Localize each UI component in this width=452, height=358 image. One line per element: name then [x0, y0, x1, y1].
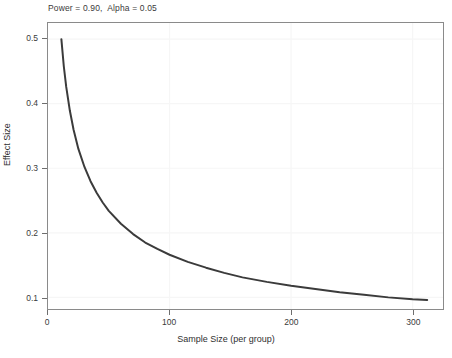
x-tick-label: 100 [162, 317, 176, 327]
power-analysis-figure: Power = 0.90, Alpha = 0.05 0.10.20.30.40… [0, 0, 452, 358]
x-tick-mark [413, 310, 414, 315]
x-axis-title: Sample Size (per group) [0, 334, 452, 344]
y-axis-title: Effect Size [2, 123, 12, 166]
x-tick-mark [169, 310, 170, 315]
x-tick-mark [47, 310, 48, 315]
y-tick-label: 0.5 [0, 33, 38, 43]
chart-title: Power = 0.90, Alpha = 0.05 [48, 3, 157, 13]
plot-area [47, 22, 444, 310]
x-tick-label: 200 [284, 317, 298, 327]
x-tick-mark [291, 310, 292, 315]
series-line [61, 39, 427, 300]
y-tick-label: 0.4 [0, 98, 38, 108]
effect-size-curve [48, 23, 443, 309]
x-tick-label: 0 [45, 317, 50, 327]
y-tick-label: 0.2 [0, 228, 38, 238]
x-tick-label: 300 [406, 317, 420, 327]
y-tick-label: 0.1 [0, 293, 38, 303]
